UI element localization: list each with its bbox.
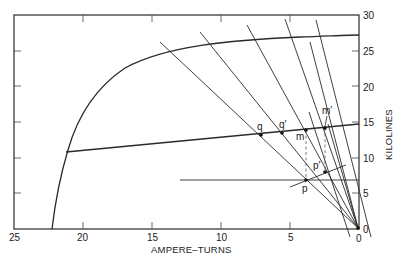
point-m [304,128,308,132]
magnetization-curve [52,35,359,229]
origin-rays [160,19,371,237]
x-tick-10: 10 [216,232,228,243]
label-m-prime: m′ [322,105,332,116]
y-tick-5: 5 [363,188,369,199]
x-tick-5: 5 [288,232,294,243]
y-tick-0: 0 [363,224,369,235]
diagram-canvas: q q′ m m′ p p′ 25 20 15 10 5 0 AMPERE–TU… [0,0,399,261]
label-q: q [257,121,263,132]
operating-line [66,124,359,152]
x-tick-25: 25 [9,232,21,243]
y-axis-ticks [14,51,359,193]
point-origin [356,226,360,230]
label-m: m [296,131,304,142]
y-tick-30: 30 [363,10,375,21]
label-p: p [302,183,308,194]
x-axis-title: AMPERE–TURNS [151,244,232,255]
m-prime-arrow-icon [325,116,327,126]
y-tick-20: 20 [363,82,375,93]
x-tick-20: 20 [77,232,89,243]
x-tick-0: 0 [356,233,362,244]
label-p-prime: p′ [313,160,321,171]
point-p [304,178,308,182]
y-axis-title: KILOLINES [383,109,394,160]
point-q-prime [280,131,284,135]
y-tick-15: 15 [363,117,375,128]
x-tick-15: 15 [147,232,159,243]
dashed-projections [306,128,325,180]
point-q [259,133,263,137]
point-p-prime [323,170,327,174]
plot-frame [14,15,359,229]
y-tick-25: 25 [363,46,375,57]
y-tick-10: 10 [363,153,375,164]
point-m-prime [323,126,327,130]
label-q-prime: q′ [279,119,287,130]
